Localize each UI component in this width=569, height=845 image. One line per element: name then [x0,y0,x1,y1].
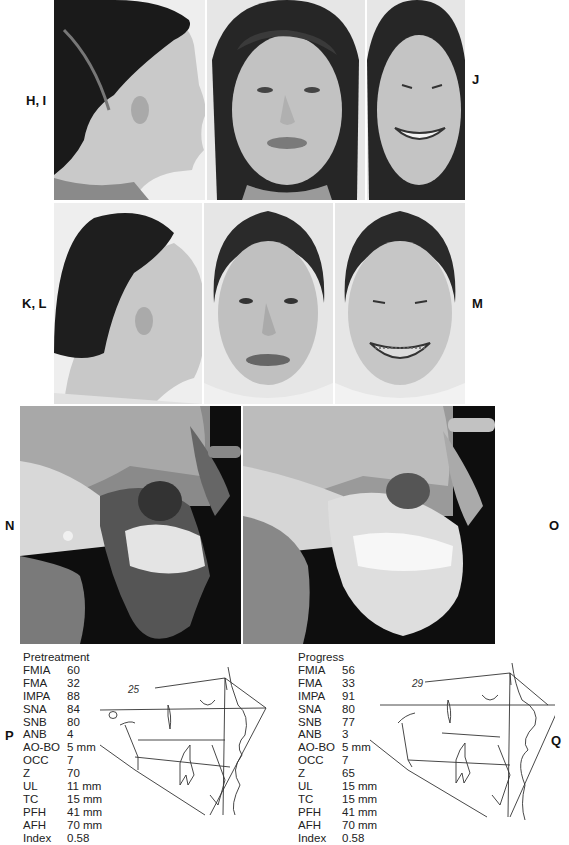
measure-name: IMPA [298,690,342,703]
table-title: Progress [298,651,377,664]
measure-name: Z [23,767,67,780]
measurements-table-progress: Progress FMIA56 FMA33 IMPA91 SNA80 SNB77… [298,651,377,845]
table-row: ANB3 [298,728,377,741]
measure-value: 84 [67,703,80,716]
table-row: IMPA88 [23,690,102,703]
measure-name: ANB [298,728,342,741]
panel-label-p: P [5,728,14,743]
measure-name: UL [298,780,342,793]
xray-progress-ceph [243,406,495,644]
panel-label-n: N [5,518,14,533]
measure-value: 5 mm [342,741,371,754]
measure-name: OCC [23,754,67,767]
measure-value: 56 [342,664,355,677]
measure-value: 0.58 [67,832,89,845]
measure-name: IMPA [23,690,67,703]
measure-name: PFH [23,806,67,819]
table-row: FMA32 [23,677,102,690]
measure-value: 70 [67,767,80,780]
measure-name: PFH [298,806,342,819]
xray-pretreatment-ceph [20,406,241,644]
measure-value: 70 mm [67,819,102,832]
measure-value: 15 mm [67,793,102,806]
table-row: OCC7 [298,754,377,767]
measure-value: 7 [342,754,348,767]
measure-value: 32 [67,677,80,690]
measure-name: AFH [298,819,342,832]
photo-progress-frontal-smile [335,203,465,404]
tracing-annotation: 29 [411,678,424,689]
measure-value: 65 [342,767,355,780]
table-row: Z70 [23,767,102,780]
tracing-annotation: 25 [127,684,140,695]
measure-value: 41 mm [67,806,102,819]
measure-value: 3 [342,728,348,741]
measure-name: TC [298,793,342,806]
photo-pretreatment-profile [54,0,205,200]
panel-label-kl: K, L [22,296,47,311]
measure-value: 91 [342,690,355,703]
measure-name: AO-BO [298,741,342,754]
measure-value: 4 [67,728,73,741]
measure-name: ANB [23,728,67,741]
photo-pretreatment-frontal-smile [367,0,465,200]
ceph-tracing-progress: 29 [370,645,555,830]
table-row: Index0.58 [298,832,377,845]
table-row: AO-BO5 mm [298,741,377,754]
table-row: ANB4 [23,728,102,741]
measure-value: 77 [342,716,355,729]
measure-value: 80 [342,703,355,716]
table-row: UL15 mm [298,780,377,793]
ceph-tracing-pretreatment: 25 [100,645,280,830]
measure-value: 11 mm [67,780,101,793]
measure-name: Z [298,767,342,780]
table-row: PFH41 mm [298,806,377,819]
photo-progress-profile [54,203,202,404]
photo-pretreatment-frontal-rest [207,0,365,200]
table-row: AFH70 mm [23,819,102,832]
table-row: SNA80 [298,703,377,716]
measure-value: 80 [67,716,80,729]
measure-value: 60 [67,664,80,677]
table-row: UL11 mm [23,780,102,793]
measure-name: Index [23,832,67,845]
panel-label-o: O [549,518,559,533]
measure-value: 7 [67,754,73,767]
table-row: OCC7 [23,754,102,767]
measure-value: 5 mm [67,741,96,754]
table-row: SNB80 [23,716,102,729]
table-title: Pretreatment [23,651,102,664]
measure-name: AO-BO [23,741,67,754]
table-row: TC15 mm [298,793,377,806]
table-row: Z65 [298,767,377,780]
table-row: TC15 mm [23,793,102,806]
measure-name: OCC [298,754,342,767]
table-row: Index0.58 [23,832,102,845]
table-row: FMIA56 [298,664,377,677]
measure-name: FMA [298,677,342,690]
measure-name: SNA [298,703,342,716]
measure-value: 0.58 [342,832,364,845]
measure-name: Index [298,832,342,845]
measure-value: 33 [342,677,355,690]
measure-name: TC [23,793,67,806]
measure-name: FMA [23,677,67,690]
panel-label-m: M [472,296,483,311]
table-row: AFH70 mm [298,819,377,832]
table-row: SNB77 [298,716,377,729]
table-row: PFH41 mm [23,806,102,819]
measure-name: SNB [298,716,342,729]
measure-value: 88 [67,690,80,703]
table-row: SNA84 [23,703,102,716]
panel-label-j: J [472,72,479,87]
measure-name: UL [23,780,67,793]
photo-progress-frontal-rest [204,203,333,404]
measure-name: FMIA [23,664,67,677]
measure-name: FMIA [298,664,342,677]
measurements-table-pretreatment: Pretreatment FMIA60 FMA32 IMPA88 SNA84 S… [23,651,102,845]
panel-label-hi: H, I [26,93,46,108]
measure-name: AFH [23,819,67,832]
table-row: FMA33 [298,677,377,690]
table-row: FMIA60 [23,664,102,677]
table-row: AO-BO5 mm [23,741,102,754]
